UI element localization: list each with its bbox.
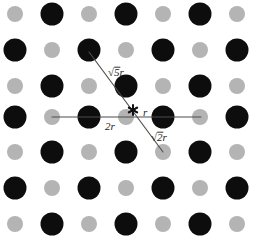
dark-atom: [41, 213, 64, 236]
dark-atom: [226, 39, 249, 62]
light-atom: [81, 216, 97, 232]
dark-atom: [152, 39, 175, 62]
light-atom: [229, 6, 245, 22]
label-2r: 2r: [105, 120, 116, 132]
dark-atom: [226, 177, 249, 200]
dark-atom: [115, 213, 138, 236]
light-atom: [44, 42, 60, 58]
light-atom: [192, 180, 208, 196]
svg-text:√2r: √2r: [151, 131, 168, 143]
light-atom: [81, 6, 97, 22]
dark-atom: [41, 141, 64, 164]
light-atom: [192, 42, 208, 58]
dark-atom: [115, 141, 138, 164]
svg-text:r: r: [143, 106, 148, 118]
light-atom: [7, 78, 23, 94]
light-atom: [81, 144, 97, 160]
dark-atom: [189, 213, 212, 236]
dark-atom: [4, 177, 27, 200]
dark-atom: [41, 3, 64, 26]
dark-atom: [189, 3, 212, 26]
light-atom: [155, 6, 171, 22]
svg-text:2r: 2r: [105, 120, 116, 132]
dark-atom: [78, 177, 101, 200]
light-atom: [7, 6, 23, 22]
light-atom: [7, 144, 23, 160]
light-atom: [81, 78, 97, 94]
light-atom: [118, 42, 134, 58]
light-atom: [44, 180, 60, 196]
label-sqrt5r: √5r: [108, 66, 125, 78]
dark-atom: [189, 75, 212, 98]
light-atom: [229, 78, 245, 94]
dark-atom: [4, 39, 27, 62]
lattice-figure: √5r2rr√2r: [0, 0, 253, 240]
light-atom: [155, 216, 171, 232]
dark-atom: [78, 39, 101, 62]
light-atom: [7, 216, 23, 232]
dark-atom: [226, 106, 249, 129]
light-atom: [155, 78, 171, 94]
light-atom: [118, 180, 134, 196]
dark-atom: [152, 177, 175, 200]
svg-text:√5r: √5r: [108, 66, 125, 78]
light-atom: [229, 216, 245, 232]
dark-atom: [4, 106, 27, 129]
dark-atom: [41, 75, 64, 98]
dark-atom: [189, 141, 212, 164]
label-r: r: [143, 106, 148, 118]
label-sqrt2r: √2r: [151, 131, 168, 143]
lattice-diagram-svg: √5r2rr√2r: [0, 0, 253, 240]
light-atom: [229, 144, 245, 160]
dark-atom: [115, 3, 138, 26]
